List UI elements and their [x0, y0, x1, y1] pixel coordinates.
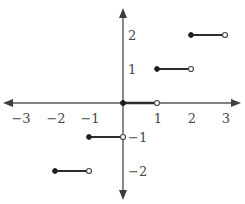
x-tick-label-pos1: 1: [154, 111, 162, 126]
segment-y-1: [155, 67, 194, 72]
x-tick-label-pos3: 3: [222, 111, 230, 126]
y-tick-label-pos1: 1: [128, 62, 136, 77]
x-tick-label-neg2: −2: [46, 111, 65, 126]
segment-y-1-closed-endpoint: [155, 67, 160, 72]
segment-y-neg2-closed-endpoint: [53, 169, 58, 174]
segment-y-neg1-closed-endpoint: [87, 135, 92, 140]
segment-y-neg2: [53, 169, 92, 174]
y-axis-arrow-down-icon: [119, 190, 127, 200]
coordinate-plane: −3 −2 −1 1 2 3 2 1 −1 −2: [0, 0, 245, 204]
segment-y-neg2-open-endpoint: [87, 169, 92, 174]
segment-y-2-open-endpoint: [223, 33, 228, 38]
segment-y-2: [189, 33, 228, 38]
segment-y-neg1: [87, 135, 126, 140]
segment-y-neg1-open-endpoint: [121, 135, 126, 140]
y-tick-label-neg1: −1: [128, 130, 147, 145]
segment-y-2-closed-endpoint: [189, 33, 194, 38]
y-tick-label-pos2: 2: [128, 28, 136, 43]
y-axis-arrow-up-icon: [119, 8, 127, 18]
segment-y-0-closed-endpoint: [121, 101, 126, 106]
x-tick-label-neg3: −3: [11, 111, 30, 126]
segment-y-0-open-endpoint: [155, 101, 160, 106]
x-axis-arrow-right-icon: [231, 99, 241, 107]
x-tick-label-neg1: −1: [80, 111, 99, 126]
y-tick-label-neg2: −2: [128, 164, 147, 179]
x-axis-arrow-left-icon: [3, 99, 13, 107]
x-tick-label-pos2: 2: [188, 111, 196, 126]
segment-y-1-open-endpoint: [189, 67, 194, 72]
segment-y-0: [121, 101, 160, 106]
graph-figure: −3 −2 −1 1 2 3 2 1 −1 −2: [0, 0, 245, 204]
